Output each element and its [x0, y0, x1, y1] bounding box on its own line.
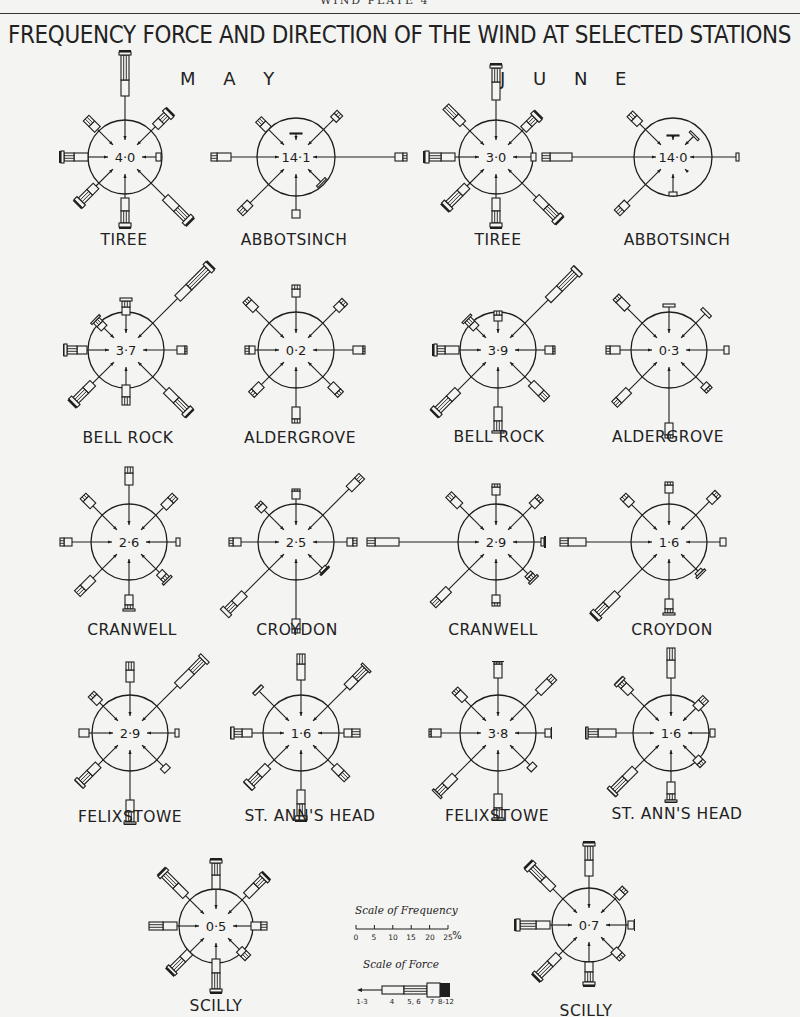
wind-arm-nw [256, 117, 287, 148]
wind-arm-se [507, 742, 537, 772]
calm-percentage: 1·6 [291, 726, 312, 741]
wind-arm-n [120, 298, 132, 333]
wind-arm-nw [446, 492, 487, 533]
wind-arm-n [119, 50, 131, 140]
wind-arm-ne [506, 265, 583, 342]
wind-rose: 3·9 [429, 265, 582, 433]
wind-arm-se [134, 358, 195, 419]
wind-rose: 0·7 [514, 841, 635, 987]
wind-arm-w [149, 922, 199, 930]
wind-arm-e [146, 538, 180, 546]
wind-arm-sw [607, 741, 664, 798]
wind-arm-w [59, 151, 108, 163]
wind-arm-nw [88, 691, 121, 724]
calm-percentage: 3·7 [116, 343, 137, 358]
frequency-tick: 5 [372, 933, 377, 942]
frequency-tick: 15 [406, 933, 416, 942]
wind-arm-sw [237, 166, 286, 215]
wind-arm-se [304, 165, 327, 188]
wind-arm-w [560, 538, 652, 546]
wind-arm-s [292, 367, 300, 423]
wind-arm-n [126, 662, 134, 716]
wind-rose: 2·5 [220, 473, 364, 633]
station-label: FELIXSTOWE [445, 807, 549, 825]
calm-percentage: 2·5 [286, 535, 307, 550]
wind-arm-n [290, 133, 302, 140]
wind-arm-se [225, 935, 250, 960]
wind-arm-e [147, 729, 179, 737]
wind-arm-e [690, 153, 739, 161]
wind-arm-sw [249, 359, 287, 397]
wind-arm-w [60, 538, 112, 546]
wind-arm-sw [67, 358, 118, 409]
wind-arm-se [504, 165, 565, 226]
wind-arm-e [233, 922, 267, 930]
wind-arm-nw [252, 684, 293, 725]
force-label: 1-3 [356, 998, 367, 1006]
wind-arm-ne [138, 493, 178, 533]
wind-rose: 2·6 [60, 467, 180, 611]
wind-arm-w [367, 538, 479, 546]
wind-arm-n [210, 858, 222, 909]
wind-arm-n [292, 489, 300, 525]
station-label: ST. ANN'S HEAD [244, 807, 375, 825]
wind-arm-e [606, 919, 635, 931]
station-label: SCILLY [560, 1002, 613, 1017]
force-label: 5, 6 [407, 998, 420, 1006]
wind-arm-n [663, 304, 675, 333]
wind-arm-ne [309, 663, 371, 725]
wind-arm-w [432, 344, 481, 356]
station-label: ABBOTSINCH [241, 231, 348, 249]
calm-percentage: 1·6 [661, 726, 682, 741]
wind-arm-se [684, 168, 689, 173]
calm-percentage: 3·8 [488, 726, 509, 741]
wind-arm-e [686, 538, 726, 546]
wind-arm-se [678, 359, 712, 393]
wind-rose: 1·6 [585, 648, 715, 803]
wind-arm-nw [443, 104, 487, 148]
wind-rose: 3·7 [63, 260, 216, 418]
wind-arm-n [125, 467, 133, 525]
wind-arm-sw [429, 358, 490, 419]
station-label: TIREE [475, 231, 522, 249]
wind-rose: 3·8 [429, 661, 557, 821]
wind-arm-w [606, 346, 652, 354]
wind-arm-se [677, 550, 706, 579]
wind-arm-s [663, 559, 675, 615]
calm-percentage: 2·9 [120, 726, 141, 741]
wind-rose: 1·6 [560, 482, 726, 622]
calm-percentage: 14·1 [282, 150, 311, 165]
wind-arm-n [490, 63, 502, 140]
wind-arm-ne [138, 654, 209, 725]
wind-arm-w [514, 919, 572, 931]
wind-arm-s [122, 367, 130, 405]
wind-arm-s [492, 367, 504, 433]
wind-arm-e [313, 538, 357, 546]
wind-arm-nw [523, 859, 581, 917]
wind-arm-w [229, 538, 279, 546]
frequency-tick: 10 [388, 933, 398, 942]
wind-arm-ne [504, 110, 544, 150]
wind-arm-ne [133, 107, 175, 149]
wind-arm-ne [681, 131, 699, 149]
wind-arm-s [665, 750, 677, 803]
station-label: ABBOTSINCH [624, 231, 731, 249]
wind-arm-ne [677, 308, 712, 343]
wind-arm-nw [613, 294, 660, 341]
station-label: FELIXSTOWE [78, 808, 182, 826]
wind-arm-n [667, 648, 675, 716]
wind-rose: 2·9 [367, 484, 546, 608]
wind-arm-s [119, 174, 131, 229]
wind-arm-ne [134, 260, 216, 342]
wind-arm-ne [305, 473, 364, 532]
wind-arm-nw [83, 115, 116, 148]
wind-arm-w [429, 729, 481, 737]
wind-arm-ne [224, 871, 271, 918]
wind-arm-s [492, 559, 500, 606]
station-label: BELL ROCK [453, 428, 544, 446]
wind-arm-w [585, 727, 654, 739]
wind-arm-n [583, 841, 595, 908]
calm-percentage: 1·6 [659, 535, 680, 550]
calm-percentage: 2·9 [486, 535, 507, 550]
wind-arm-e [513, 153, 536, 161]
